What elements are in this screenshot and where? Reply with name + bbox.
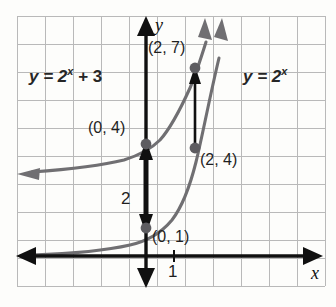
equation-base-exponent: x [281,65,287,77]
point-label-0-1: (0, 1) [152,229,189,245]
shift-amount-label: 2 [121,190,130,207]
y-axis-label: y [155,16,163,34]
point-2-7-marker [190,63,201,74]
curve-shifted-arrow-left [17,168,40,180]
equation-label-base: y = 2x [243,66,287,85]
point-label-0-4: (0, 4) [88,120,125,136]
point-label-2-4: (2, 4) [200,152,237,168]
equation-label-shifted: y = 2x + 3 [29,66,102,85]
x-axis-arrow-left [16,247,36,265]
point-0-1-marker [141,223,152,234]
graph-figure: y = 2x + 3 y = 2x (2, 7) (0, 4) (2, 4) (… [0,0,336,307]
curve-shifted [32,42,206,172]
curve-base-arrow-up [214,18,228,41]
point-2-4-marker [190,143,201,154]
x-tick-label-1: 1 [168,263,177,280]
shift-double-arrow [139,140,153,234]
x-axis-label: x [311,264,319,282]
y-axis-arrow-up [137,16,155,36]
curve-shifted-arrow-up [198,18,212,40]
equation-shifted-lhs: y = 2 [29,67,67,86]
y-axis-arrow-down [137,268,155,288]
point-0-4-marker [141,139,152,150]
grid-lines [17,16,325,286]
point-label-2-7: (2, 7) [148,40,185,56]
shift-arrow-at-x2 [189,66,201,148]
equation-shifted-tail: + 3 [73,67,102,86]
equation-base-lhs: y = 2 [243,67,281,86]
